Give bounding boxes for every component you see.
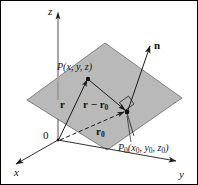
point-p0-coord-x: x	[131, 142, 135, 153]
vector-r-minus-r0-subscript: 0	[105, 103, 109, 112]
point-p0-coord-z-sub: 0	[162, 146, 166, 155]
plane-normal-vector-diagram: z x y 0 P(x, y, z) P0(x0, y0, z0) r r − …	[0, 0, 198, 185]
vector-r-minus-r0-right: r	[100, 98, 105, 110]
diagram-canvas	[0, 0, 198, 185]
vector-label-n: n	[154, 40, 160, 51]
vector-label-r0: r0	[96, 126, 105, 137]
vector-label-r-minus-r0: r − r0	[83, 99, 108, 110]
axis-label-z: z	[48, 6, 52, 17]
vector-label-r: r	[60, 99, 65, 110]
point-label-p0: P0(x0, y0, z0)	[118, 143, 169, 153]
vector-r0-subscript: 0	[101, 130, 105, 139]
point-p-dot	[86, 77, 90, 81]
point-p0-coord-x-sub: 0	[136, 146, 140, 155]
point-p-coords: x, y, z	[66, 61, 88, 72]
axis-label-y: y	[179, 169, 184, 180]
axis-label-x: x	[14, 167, 19, 178]
point-p-paren-close: )	[89, 61, 92, 72]
point-p0-coord-y-sub: 0	[149, 146, 153, 155]
point-label-p: P(x, y, z)	[57, 62, 92, 72]
point-p0-subscript: 0	[124, 146, 128, 155]
point-p0-dot	[125, 110, 130, 115]
point-p0-coord-z: z	[158, 142, 162, 153]
origin-label: 0	[43, 130, 49, 141]
origin-dot	[57, 139, 60, 142]
